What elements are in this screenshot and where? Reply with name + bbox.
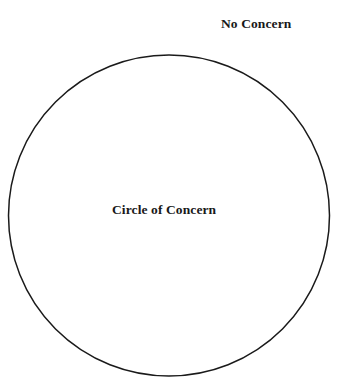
diagram-svg [0,0,350,388]
diagram-background [0,0,350,388]
label-no-concern: No Concern [221,16,291,31]
label-circle-of-concern: Circle of Concern [112,202,216,217]
diagram-canvas: No Concern Circle of Concern [0,0,350,388]
